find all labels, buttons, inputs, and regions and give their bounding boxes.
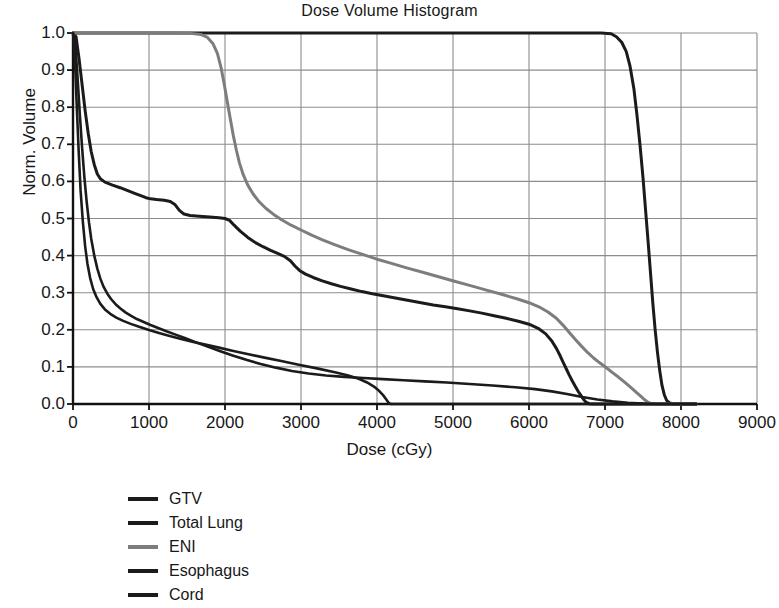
y-tick-label: 0.1 [17, 357, 65, 377]
legend-label-cord: Cord [169, 586, 204, 604]
y-tick-label: 0.3 [17, 283, 65, 303]
legend-swatch-cord [128, 593, 158, 597]
x-tick-label: 8000 [662, 413, 700, 433]
plot-area [0, 0, 779, 470]
y-tick-label: 0.6 [17, 171, 65, 191]
y-tick-label: 0.4 [17, 246, 65, 266]
y-tick-label: 0.8 [17, 97, 65, 117]
legend-item-cord[interactable]: Cord [128, 583, 428, 607]
legend-item-esophagus[interactable]: Esophagus [128, 559, 428, 583]
y-tick-label: 0.2 [17, 320, 65, 340]
x-tick-label: 5000 [434, 413, 472, 433]
legend-item-eni[interactable]: ENI [128, 535, 428, 559]
legend-swatch-eni [128, 545, 158, 549]
legend-item-gtv[interactable]: GTV [128, 487, 428, 511]
legend-label-gtv: GTV [169, 490, 202, 508]
x-tick-label: 6000 [510, 413, 548, 433]
x-tick-label: 4000 [358, 413, 396, 433]
legend-swatch-total-lung [128, 521, 158, 525]
y-tick-label: 0.5 [17, 209, 65, 229]
x-tick-label: 7000 [586, 413, 624, 433]
chart-legend: GTV Total Lung ENI Esophagus Cord [128, 487, 428, 607]
legend-label-total-lung: Total Lung [169, 514, 243, 532]
x-tick-label: 9000 [738, 413, 776, 433]
x-tick-label: 2000 [206, 413, 244, 433]
legend-label-eni: ENI [169, 538, 196, 556]
x-tick-label: 3000 [282, 413, 320, 433]
tick-marks [67, 33, 757, 410]
y-tick-label: 0.7 [17, 134, 65, 154]
x-tick-label: 0 [68, 413, 77, 433]
legend-item-total-lung[interactable]: Total Lung [128, 511, 428, 535]
legend-swatch-esophagus [128, 569, 158, 573]
x-tick-label: 1000 [130, 413, 168, 433]
grid-lines [73, 33, 757, 404]
legend-label-esophagus: Esophagus [169, 562, 249, 580]
dose-volume-histogram-figure: Dose Volume Histogram Norm. Volume Dose … [0, 0, 779, 608]
y-tick-label: 0.9 [17, 60, 65, 80]
legend-swatch-gtv [128, 497, 158, 501]
y-tick-label: 1.0 [17, 23, 65, 43]
y-tick-label: 0.0 [17, 394, 65, 414]
